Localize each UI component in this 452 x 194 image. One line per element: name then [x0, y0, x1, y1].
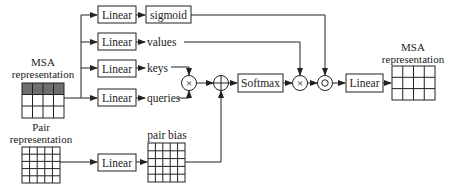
msa-output-label: MSA representation	[382, 41, 445, 65]
values-label: values	[147, 36, 177, 48]
sigmoid-box: sigmoid	[146, 6, 191, 23]
linear-gate-box: Linear	[98, 6, 136, 23]
svg-text:Softmax: Softmax	[241, 77, 280, 89]
pair-linear-box: Linear	[98, 154, 136, 171]
svg-text:MSA: MSA	[31, 56, 55, 68]
linear-queries-box: Linear	[98, 89, 136, 106]
svg-text:Linear: Linear	[102, 63, 132, 75]
msa-fanout-connectors	[64, 15, 97, 98]
linear-output-arrows	[136, 15, 145, 98]
pair-input-label: Pair representation	[10, 121, 73, 145]
pair-bias-grid	[148, 143, 185, 182]
svg-text:Linear: Linear	[102, 92, 132, 104]
linear-keys-box: Linear	[98, 60, 136, 77]
msa-input-grid	[22, 83, 64, 118]
svg-text:Pair: Pair	[32, 121, 50, 133]
attention-diagram: MSA representation Pair representation	[0, 0, 452, 194]
svg-text:Linear: Linear	[349, 77, 379, 89]
final-linear-box: Linear	[346, 74, 383, 92]
msa-input-label: MSA representation	[12, 56, 75, 80]
svg-text:Linear: Linear	[102, 157, 132, 169]
keys-label: keys	[147, 62, 169, 75]
linear-values-box: Linear	[98, 33, 136, 50]
gating-operator	[318, 76, 333, 91]
svg-text:×: ×	[186, 77, 192, 89]
weighted-sum-operator: ×	[293, 76, 308, 91]
msa-output-grid	[392, 66, 435, 100]
dot-product-operator: ×	[182, 76, 197, 91]
add-bias-operator	[214, 76, 229, 91]
svg-text:sigmoid: sigmoid	[150, 9, 187, 22]
softmax-box: Softmax	[238, 74, 283, 92]
svg-text:representation: representation	[12, 68, 75, 80]
svg-text:representation: representation	[10, 133, 73, 145]
svg-text:MSA: MSA	[401, 41, 425, 53]
svg-text:Linear: Linear	[102, 36, 132, 48]
pair-input-grid	[22, 147, 60, 183]
svg-text:representation: representation	[382, 53, 445, 65]
svg-text:Linear: Linear	[102, 9, 132, 21]
svg-text:×: ×	[297, 77, 303, 89]
queries-label: queries	[147, 92, 181, 105]
pair-bias-label: pair bias	[147, 129, 187, 142]
